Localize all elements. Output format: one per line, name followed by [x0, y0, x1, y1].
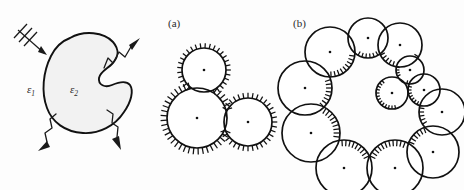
discretization-circle — [367, 140, 423, 190]
circle-center-dot — [196, 117, 199, 120]
boundary-hatch-tick — [220, 137, 225, 141]
scattered-arrowhead-ll — [38, 141, 50, 151]
scatterer-body-outline — [44, 33, 132, 133]
boundary-hatch-tick — [167, 97, 172, 101]
circle-center-dot — [423, 89, 426, 92]
boundary-hatch-tick — [171, 139, 176, 144]
epsilon-1-subscript: 1 — [31, 89, 35, 98]
incident-wave — [14, 24, 47, 55]
panel-scattering-body: ε1 ε2 — [14, 24, 140, 151]
boundary-hatch-tick — [163, 128, 169, 130]
panel-b: (b) — [278, 17, 464, 190]
boundary-hatch-tick — [165, 132, 171, 135]
boundary-hatch-tick — [222, 99, 228, 102]
panel-b-circle-group — [278, 18, 464, 190]
circle-center-dot — [203, 69, 206, 72]
figure-canvas: ε1 ε2 — [0, 0, 464, 190]
circle-center-dot — [399, 44, 402, 47]
epsilon-1-label: ε1 — [27, 83, 35, 98]
panel-b-label: (b) — [293, 17, 306, 30]
scattered-arrowhead-lr — [112, 136, 121, 150]
boundary-hatch-tick — [161, 110, 167, 111]
boundary-hatch-tick — [161, 124, 167, 125]
figure-root: ε1 ε2 — [0, 0, 464, 190]
boundary-hatch-tick — [202, 148, 203, 154]
boundary-hatch-tick — [217, 140, 221, 145]
incident-arrowhead — [38, 46, 47, 55]
panel-a: (a) — [161, 17, 278, 154]
circle-center-dot — [441, 111, 444, 114]
circle-center-dot — [432, 151, 435, 154]
boundary-hatch-tick — [220, 95, 225, 99]
circle-center-dot — [394, 167, 397, 170]
boundary-hatch-tick — [165, 101, 171, 104]
epsilon-2-subscript: 2 — [74, 89, 78, 98]
circle-center-dot — [367, 37, 370, 40]
circle-center-dot — [409, 69, 412, 72]
boundary-hatch-tick — [188, 147, 190, 153]
boundary-hatch-tick — [163, 106, 169, 108]
boundary-hatch-tick — [175, 142, 179, 147]
boundary-hatch-tick — [214, 143, 218, 148]
circle-center-dot — [391, 92, 394, 95]
boundary-hatch-tick — [167, 136, 172, 140]
boundary-hatch-tick — [171, 93, 176, 98]
boundary-hatch-tick — [175, 89, 179, 94]
circle-center-dot — [329, 51, 332, 54]
circle-center-dot — [247, 121, 250, 124]
boundary-hatch-tick — [206, 147, 208, 153]
panel-a-label: (a) — [168, 17, 181, 30]
circle-center-dot — [304, 87, 307, 90]
boundary-hatch-tick — [183, 146, 185, 152]
boundary-hatch-tick — [179, 86, 182, 92]
boundary-hatch-tick — [210, 145, 213, 151]
circle-center-dot — [310, 132, 313, 135]
boundary-hatch-tick — [179, 144, 182, 150]
boundary-hatch-tick — [193, 148, 194, 154]
circle-center-dot — [343, 167, 346, 170]
